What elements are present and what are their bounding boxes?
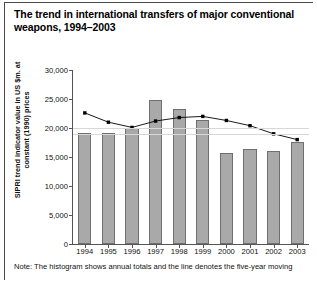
x-tick-label: 2001 [242, 247, 259, 256]
trend-line-marker [248, 124, 251, 127]
top-border-rule [4, 2, 313, 3]
x-tick-label: 1999 [194, 247, 211, 256]
x-tick-label: 2000 [218, 247, 235, 256]
figure-panel: The trend in international transfers of … [0, 0, 317, 282]
moving-average-line [73, 70, 309, 244]
y-tick-label: 0 [64, 240, 68, 249]
x-tick-label: 1994 [76, 247, 93, 256]
x-axis-tick-labels: 1994199519961997199819992000200120022003 [73, 247, 309, 261]
x-tick-mark [250, 245, 251, 248]
y-tick-mark [69, 70, 73, 71]
trend-line-marker [296, 138, 299, 141]
y-tick-label: 10,000 [45, 182, 68, 191]
y-tick-label: 20,000 [45, 124, 68, 133]
trend-line-marker [178, 116, 181, 119]
x-tick-label: 1996 [124, 247, 141, 256]
gridline [73, 134, 309, 135]
x-tick-mark [297, 245, 298, 248]
x-tick-mark [274, 245, 275, 248]
x-tick-label: 1997 [147, 247, 164, 256]
x-tick-label: 2002 [265, 247, 282, 256]
trend-line-marker [154, 119, 157, 122]
figure-title: The trend in international transfers of … [14, 8, 306, 34]
y-tick-label: 25,000 [45, 95, 68, 104]
x-tick-mark [226, 245, 227, 248]
y-tick-label: 30,000 [45, 66, 68, 75]
y-tick-mark [69, 157, 73, 158]
trend-line-marker [107, 121, 110, 124]
x-tick-mark [179, 245, 180, 248]
x-tick-mark [85, 245, 86, 248]
y-tick-mark [69, 215, 73, 216]
trend-line-path [85, 113, 297, 140]
x-tick-mark [108, 245, 109, 248]
x-tick-label: 2003 [289, 247, 306, 256]
x-tick-label: 1998 [171, 247, 188, 256]
trend-line-marker [225, 119, 228, 122]
x-tick-label: 1995 [100, 247, 117, 256]
x-tick-mark [203, 245, 204, 248]
y-tick-mark [69, 244, 73, 245]
x-tick-mark [132, 245, 133, 248]
y-axis-tick-labels: 05,00010,00015,00020,00025,00030,000 [28, 55, 68, 245]
y-tick-label: 5,000 [49, 211, 68, 220]
trend-line-marker [83, 111, 86, 114]
y-tick-mark [69, 99, 73, 100]
gridline [73, 128, 309, 129]
chart-plot: SIPRI trend indicator value in US $m. at… [0, 55, 317, 250]
y-tick-label: 15,000 [45, 153, 68, 162]
trend-line-marker [201, 115, 204, 118]
x-tick-mark [156, 245, 157, 248]
y-tick-mark [69, 186, 73, 187]
figure-note: Note: The histogram shows annual totals … [14, 262, 310, 272]
